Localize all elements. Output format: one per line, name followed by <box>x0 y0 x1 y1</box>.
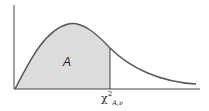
chi-symbol: χ <box>101 92 108 105</box>
chi-subscript: A,ν <box>112 99 123 107</box>
chi-superscript: 2 <box>108 90 112 98</box>
critical-value-label: χ2A,ν <box>101 91 123 107</box>
area-label: A <box>63 55 71 69</box>
